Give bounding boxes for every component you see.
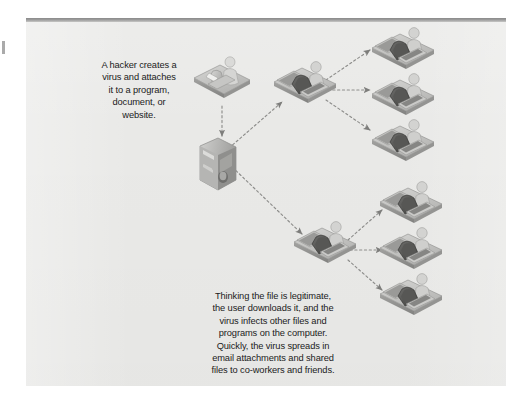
arrow-victim-bottom-to-spread-1	[348, 210, 382, 240]
person-at-desk-icon	[294, 222, 356, 263]
arrow-victim-top-to-spread-1	[326, 50, 370, 80]
node-layer	[194, 28, 442, 315]
person-at-desk-icon	[372, 120, 434, 161]
person-at-desk-icon	[274, 62, 336, 103]
person-at-desk-icon	[380, 228, 442, 269]
arrow-server-to-victim-bottom	[229, 164, 302, 234]
arrow-victim-top-to-spread-3	[326, 100, 370, 130]
arrow-server-to-victim-top	[229, 102, 282, 148]
page-margin-mark	[2, 41, 5, 54]
person-at-desk-icon	[372, 74, 434, 115]
arrow-victim-bottom-to-spread-3	[348, 260, 382, 290]
person-at-computer-icon	[194, 57, 250, 98]
figure-root: A hacker creates a virus and attaches it…	[0, 0, 524, 416]
person-at-desk-icon	[372, 28, 434, 69]
server-tower-icon	[200, 138, 236, 190]
hacker-caption: A hacker creates a virus and attaches it…	[78, 59, 200, 121]
user-caption: Thinking the file is legitimate, the use…	[183, 290, 363, 377]
person-at-desk-icon	[380, 274, 442, 315]
person-at-desk-icon	[380, 182, 442, 223]
